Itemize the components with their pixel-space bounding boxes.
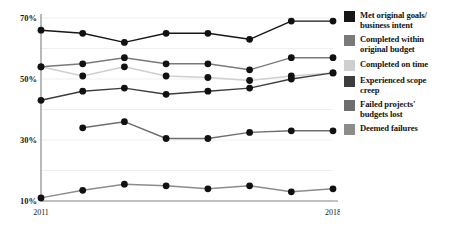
- data-point-marker: [38, 63, 45, 70]
- legend-item: Completed within original budget: [344, 34, 453, 54]
- data-point-marker: [330, 54, 337, 61]
- data-point-marker: [330, 70, 337, 77]
- legend-item-label: Completed within original budget: [360, 34, 424, 54]
- line-chart: 10%30%50%70%20112018 Met original goals/…: [0, 0, 457, 231]
- data-point-marker: [79, 73, 86, 80]
- data-point-marker: [246, 77, 253, 84]
- legend-item: Failed projects' budgets lost: [344, 99, 453, 119]
- data-point-marker: [205, 30, 212, 37]
- legend-item-label: Deemed failures: [360, 123, 418, 133]
- legend-swatch-icon: [344, 60, 355, 71]
- data-point-marker: [38, 97, 45, 104]
- plot-area: 10%30%50%70%20112018: [0, 0, 340, 231]
- data-point-marker: [246, 85, 253, 92]
- x-axis-tick-label: 2011: [33, 208, 49, 217]
- data-point-marker: [205, 135, 212, 142]
- data-point-marker: [163, 182, 170, 189]
- data-point-marker: [121, 181, 128, 188]
- y-axis-tick-label: 70%: [20, 13, 37, 23]
- legend-item-label: Completed on time: [360, 59, 428, 69]
- y-axis-tick-label: 10%: [20, 196, 37, 206]
- data-point-marker: [38, 27, 45, 34]
- y-axis-tick-label: 50%: [20, 74, 37, 84]
- y-axis-tick-label: 30%: [20, 135, 37, 145]
- data-point-marker: [121, 39, 128, 46]
- data-point-marker: [330, 127, 337, 134]
- legend-swatch-icon: [344, 124, 355, 135]
- data-point-marker: [205, 60, 212, 67]
- data-point-marker: [163, 91, 170, 98]
- legend-item: Experienced scope creep: [344, 75, 453, 95]
- data-point-marker: [246, 129, 253, 136]
- data-point-marker: [288, 76, 295, 83]
- data-point-marker: [205, 185, 212, 192]
- data-point-marker: [163, 60, 170, 67]
- legend-item: Met original goals/ business intent: [344, 10, 453, 30]
- legend-swatch-icon: [344, 76, 355, 87]
- data-point-marker: [288, 188, 295, 195]
- data-point-marker: [330, 18, 337, 25]
- data-point-marker: [121, 63, 128, 70]
- data-point-marker: [288, 54, 295, 61]
- chart-legend: Met original goals/ business intent Comp…: [340, 0, 457, 231]
- data-point-marker: [288, 127, 295, 134]
- data-point-marker: [121, 85, 128, 92]
- legend-item-label: Failed projects' budgets lost: [360, 99, 415, 119]
- data-point-marker: [246, 66, 253, 73]
- data-point-marker: [288, 18, 295, 25]
- data-point-marker: [79, 30, 86, 37]
- x-axis-tick-label: 2018: [325, 208, 340, 217]
- data-point-marker: [163, 135, 170, 142]
- data-point-marker: [205, 88, 212, 95]
- data-point-marker: [79, 124, 86, 131]
- data-point-marker: [205, 74, 212, 81]
- data-point-marker: [163, 30, 170, 37]
- data-point-marker: [79, 60, 86, 67]
- legend-item-label: Met original goals/ business intent: [360, 10, 427, 30]
- data-point-marker: [163, 73, 170, 80]
- legend-swatch-icon: [344, 35, 355, 46]
- data-point-marker: [38, 195, 45, 202]
- legend-swatch-icon: [344, 11, 355, 22]
- legend-item: Deemed failures: [344, 123, 453, 135]
- data-point-marker: [121, 54, 128, 61]
- legend-swatch-icon: [344, 100, 355, 111]
- plot-svg: 10%30%50%70%20112018: [0, 0, 340, 231]
- legend-item: Completed on time: [344, 59, 453, 71]
- legend-item-label: Experienced scope creep: [360, 75, 426, 95]
- data-point-marker: [121, 118, 128, 125]
- data-point-marker: [330, 185, 337, 192]
- data-point-marker: [79, 187, 86, 194]
- data-point-marker: [79, 88, 86, 95]
- data-point-marker: [246, 36, 253, 43]
- data-point-marker: [246, 182, 253, 189]
